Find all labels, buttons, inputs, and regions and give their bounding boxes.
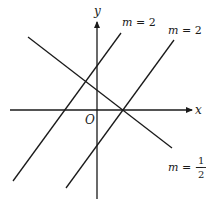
slope-label-neg-half: m = − 1 2 — [168, 155, 206, 180]
fraction-denominator: 2 — [198, 169, 204, 180]
slope-label-left: m = 2 — [122, 16, 156, 29]
line-slope-2-right — [66, 40, 174, 188]
fraction-numerator: 1 — [198, 155, 204, 166]
diagram-svg: y x O m = 2 m = 2 m = − 1 2 — [0, 0, 221, 202]
line-slope-2-left — [13, 33, 121, 181]
y-axis-label: y — [93, 4, 101, 18]
x-axis-label: x — [195, 103, 202, 117]
slope-label-right: m = 2 — [168, 24, 202, 37]
coordinate-diagram: y x O m = 2 m = 2 m = − 1 2 — [0, 0, 221, 202]
origin-label: O — [85, 113, 95, 127]
